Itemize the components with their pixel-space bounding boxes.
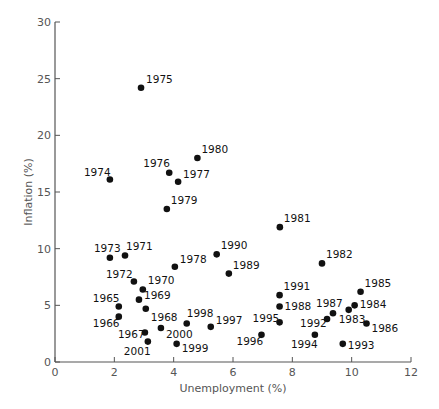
point-label: 1982 <box>326 248 353 260</box>
y-tick-label: 15 <box>37 186 51 199</box>
point-marker <box>276 303 283 310</box>
point-marker <box>226 270 233 277</box>
point-marker <box>363 320 370 327</box>
point-label: 1984 <box>360 298 387 310</box>
point-marker <box>172 264 179 271</box>
data-point: 1972 <box>106 268 137 285</box>
point-label: 1993 <box>348 339 375 351</box>
point-label: 1966 <box>93 317 120 329</box>
point-label: 1978 <box>180 253 207 265</box>
point-label: 2000 <box>166 328 193 340</box>
point-marker <box>339 341 346 348</box>
data-point: 1971 <box>122 240 153 258</box>
y-axis: 051015202530 <box>37 16 60 369</box>
data-point: 1996 <box>236 332 264 347</box>
point-marker <box>122 252 129 259</box>
data-point: 1994 <box>291 332 318 350</box>
data-point: 1981 <box>277 212 311 230</box>
data-point: 1978 <box>172 253 207 270</box>
x-tick-label: 4 <box>170 366 177 379</box>
x-tick-label: 0 <box>52 366 59 379</box>
point-label: 1972 <box>106 268 133 280</box>
point-label: 1988 <box>285 300 312 312</box>
point-marker <box>164 206 171 213</box>
data-point: 1995 <box>253 312 283 325</box>
data-point: 1990 <box>213 239 247 257</box>
point-marker <box>173 341 180 348</box>
point-marker <box>158 325 165 332</box>
point-label: 1968 <box>151 311 178 323</box>
data-point: 1967 <box>118 328 148 340</box>
data-point: 1980 <box>194 143 228 161</box>
y-tick-label: 25 <box>37 73 51 86</box>
point-label: 1980 <box>201 143 228 155</box>
point-marker <box>357 288 364 295</box>
point-label: 1991 <box>284 280 311 292</box>
scatter-chart: 051015202530 024681012 Unemployment (%) … <box>0 0 439 409</box>
point-label: 1973 <box>94 242 121 254</box>
point-marker <box>207 324 214 331</box>
x-tick-label: 6 <box>230 366 237 379</box>
data-point: 1993 <box>339 339 374 351</box>
data-point: 1979 <box>164 194 198 212</box>
point-label: 1977 <box>183 168 210 180</box>
y-axis-title: Inflation (%) <box>22 158 35 226</box>
point-label: 1998 <box>187 307 214 319</box>
data-point: 1975 <box>138 73 173 91</box>
x-axis-title: Unemployment (%) <box>179 382 286 395</box>
y-tick-label: 10 <box>37 243 51 256</box>
point-label: 1987 <box>316 297 343 309</box>
y-tick-label: 20 <box>37 129 51 142</box>
x-tick-label: 10 <box>345 366 359 379</box>
point-marker <box>166 169 173 176</box>
x-tick-label: 12 <box>404 366 418 379</box>
x-axis: 024681012 <box>52 357 419 379</box>
data-point: 1982 <box>319 248 353 266</box>
point-label: 1990 <box>221 239 248 251</box>
point-label: 1965 <box>93 292 120 304</box>
point-marker <box>319 260 326 267</box>
point-marker <box>277 224 284 231</box>
data-point: 1985 <box>357 277 391 295</box>
data-points: 1965196619671968196919701971197219731974… <box>84 73 399 357</box>
point-label: 1995 <box>253 312 280 324</box>
point-label: 1996 <box>236 335 263 347</box>
data-point: 1998 <box>183 307 213 326</box>
data-point: 1965 <box>93 292 122 309</box>
point-label: 1997 <box>216 314 243 326</box>
point-marker <box>107 254 114 261</box>
point-label: 1983 <box>339 313 366 325</box>
point-label: 1999 <box>182 342 209 354</box>
data-point: 1991 <box>276 280 310 298</box>
point-marker <box>276 292 283 299</box>
point-marker <box>330 310 337 317</box>
point-label: 1967 <box>118 328 145 340</box>
point-label: 1976 <box>143 157 170 169</box>
data-point: 1992 <box>300 316 330 329</box>
point-label: 1969 <box>144 289 171 301</box>
point-marker <box>142 305 149 312</box>
data-point: 1966 <box>93 313 122 328</box>
point-marker <box>138 84 145 91</box>
point-label: 1992 <box>300 317 327 329</box>
y-tick-label: 0 <box>44 356 51 369</box>
data-point: 1989 <box>226 259 260 277</box>
data-point: 1968 <box>142 305 177 322</box>
data-point: 1974 <box>84 166 113 183</box>
point-label: 1986 <box>372 322 399 334</box>
y-tick-label: 30 <box>37 16 51 29</box>
point-label: 1981 <box>284 212 311 224</box>
point-marker <box>140 286 147 293</box>
x-tick-label: 8 <box>289 366 296 379</box>
point-label: 1989 <box>233 259 260 271</box>
data-point: 1984 <box>351 298 386 310</box>
point-marker <box>194 155 201 162</box>
y-tick-label: 5 <box>44 299 51 312</box>
point-marker <box>175 179 182 186</box>
x-tick-label: 2 <box>111 366 118 379</box>
data-point: 2001 <box>124 338 151 356</box>
data-point: 1988 <box>276 300 311 312</box>
point-label: 1979 <box>171 194 198 206</box>
data-point: 1976 <box>143 157 172 176</box>
point-label: 1971 <box>126 240 153 252</box>
